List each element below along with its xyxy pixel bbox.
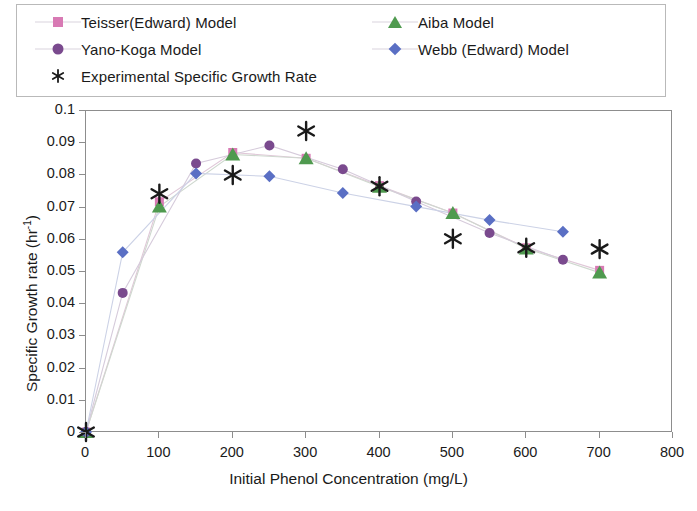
data-point [592,240,608,258]
series-markers [81,140,568,437]
data-point [557,226,569,238]
x-axis-tick [452,432,453,438]
legend-marker-square-pink [35,13,81,31]
x-axis-tick-label: 200 [202,444,262,460]
y-axis-tick [79,110,85,111]
data-series-layer [86,110,673,432]
legend-entry-aiba: Aiba Model [372,13,494,31]
x-axis-tick [85,432,86,438]
data-point [264,140,274,150]
legend-label-aiba: Aiba Model [418,14,494,31]
data-point [592,266,607,279]
legend-label-experimental: Experimental Specific Growth Rate [81,68,317,85]
y-axis-tick [79,335,85,336]
legend-entry-webb: Webb (Edward) Model [372,40,569,58]
x-axis-tick [158,432,159,438]
y-axis-tick [79,303,85,304]
series-markers [80,167,569,438]
y-axis-tick [79,271,85,272]
x-axis-tick-label: 400 [349,444,409,460]
data-point [225,147,240,160]
data-point [558,255,568,265]
x-axis-tick-label: 700 [569,444,629,460]
legend-label-teisser: Teisser(Edward) Model [81,14,236,31]
data-point [152,185,168,203]
x-axis-tick-label: 0 [55,444,115,460]
y-axis-tick-label: 0.07 [7,198,75,214]
data-point [445,230,461,248]
y-axis-title-exponent: -1 [22,220,33,229]
y-axis-title-text: Specific Growth rate (hr [23,229,40,392]
legend-marker-asterisk-black [35,67,81,85]
x-axis-tick-label: 300 [275,444,335,460]
y-axis-tick-label: 0.1 [7,101,75,117]
y-axis-tick-label: 0.01 [7,391,75,407]
legend-label-webb: Webb (Edward) Model [418,41,569,58]
legend-entry-teisser: Teisser(Edward) Model [35,13,236,31]
y-axis-tick-label: 0.09 [7,133,75,149]
legend-marker-circle-purple [35,40,81,58]
y-axis-tick-label: 0 [7,423,75,439]
x-axis-tick [525,432,526,438]
plot-area [85,110,672,432]
x-axis-tick-label: 600 [495,444,555,460]
x-axis-title: Initial Phenol Concentration (mg/L) [0,470,697,488]
data-point [337,187,349,199]
legend-entry-experimental: Experimental Specific Growth Rate [35,67,317,85]
y-axis-tick-label: 0.08 [7,165,75,181]
y-axis-tick [79,368,85,369]
chart-legend: Teisser(Edward) Model Aiba Model Yano-Ko… [16,4,666,97]
legend-label-yano-koga: Yano-Koga Model [81,41,201,58]
legend-entry-yano-koga: Yano-Koga Model [35,40,201,58]
legend-marker-diamond-blue [372,40,418,58]
data-point [191,158,201,168]
data-point [298,122,314,140]
x-axis-tick-label: 100 [128,444,188,460]
x-axis-tick [305,432,306,438]
y-axis-tick [79,142,85,143]
x-axis-tick [232,432,233,438]
y-axis-tick [79,174,85,175]
chart-figure: Teisser(Edward) Model Aiba Model Yano-Ko… [0,0,697,511]
data-point [484,214,496,226]
y-axis-tick [79,400,85,401]
x-axis-tick [379,432,380,438]
data-point [485,228,495,238]
x-axis-tick-label: 500 [422,444,482,460]
data-point [338,164,348,174]
y-axis-tick [79,207,85,208]
x-axis-tick [672,432,673,438]
data-point [118,288,128,298]
legend-marker-triangle-green [372,13,418,31]
y-axis-title: Specific Growth rate (hr-1) [22,215,41,392]
x-axis-tick-label: 800 [642,444,697,460]
x-axis-tick [599,432,600,438]
y-axis-tick [79,239,85,240]
y-axis-title-tail: ) [23,215,40,220]
data-point [263,170,275,182]
